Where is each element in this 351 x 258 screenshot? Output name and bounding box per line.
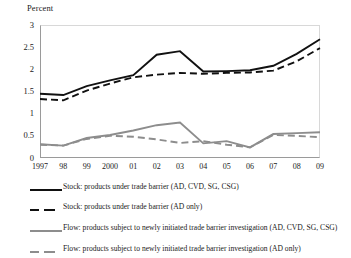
x-tick-label: 99 [83,162,91,171]
chart-figure: Percent 32.521.510.50 199798992000010203… [0,0,351,258]
chart-legend: Stock: products under trade barrier (AD,… [0,178,351,258]
x-tick-label: 02 [153,162,161,171]
data-series-canvas [40,25,320,158]
x-tick-label: 09 [316,162,324,171]
chart-plot-region: Percent 32.521.510.50 199798992000010203… [0,0,351,178]
legend-entry-label: Stock: products under trade barrier (AD,… [62,182,239,191]
legend-line-swatch-icon [30,247,62,256]
x-tick-label: 05 [223,162,231,171]
x-tick-label: 03 [176,162,184,171]
y-tick-label: 0 [4,154,34,163]
y-tick-label: 1 [4,109,34,118]
x-tick-label: 2000 [102,162,118,171]
data-series-line-0 [40,39,320,95]
x-tick-label: 04 [199,162,207,171]
x-tick-label: 06 [246,162,254,171]
x-tick-label: 98 [59,162,67,171]
x-tick-label: 1997 [32,162,48,171]
legend-entry-label: Stock: products under trade barrier (AD … [62,202,202,211]
legend-entry[interactable]: Stock: products under trade barrier (AD … [30,202,202,214]
x-tick-label: 01 [129,162,137,171]
legend-line-swatch-icon [30,185,62,194]
legend-entry[interactable]: Stock: products under trade barrier (AD,… [30,182,239,194]
y-tick-label: 2 [4,65,34,74]
x-tick-label: 07 [269,162,277,171]
x-tick-label: 08 [293,162,301,171]
legend-line-swatch-icon [30,226,62,235]
y-tick-label: 0.5 [4,131,34,140]
data-series-line-3 [40,135,320,147]
y-tick-label: 1.5 [4,87,34,96]
data-series-line-1 [40,48,320,100]
legend-entry[interactable]: Flow: products subject to newly initiate… [30,244,301,256]
y-tick-label: 3 [4,21,34,30]
legend-entry-label: Flow: products subject to newly initiate… [62,244,301,253]
legend-entry-label: Flow: products subject to newly initiate… [62,223,337,232]
legend-entry[interactable]: Flow: products subject to newly initiate… [30,223,337,235]
legend-line-swatch-icon [30,205,62,214]
y-tick-label: 2.5 [4,43,34,52]
y-axis-title: Percent [27,3,53,13]
